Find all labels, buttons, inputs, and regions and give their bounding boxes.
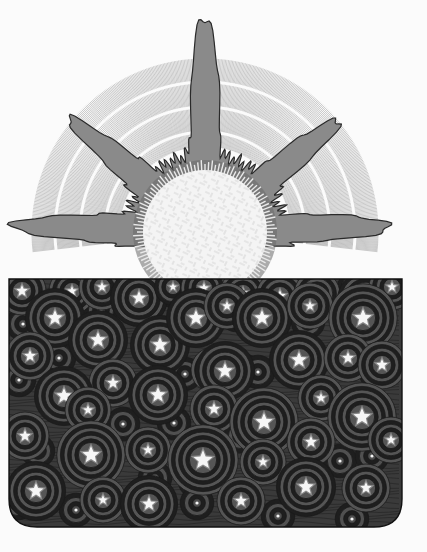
star-dot — [21, 322, 24, 325]
night-panel-group — [0, 264, 415, 536]
star-dot — [276, 514, 279, 517]
star-dot — [183, 372, 186, 375]
sun-over-starry-panel-illustration — [0, 0, 427, 552]
star-dot — [338, 459, 341, 462]
night-panel-content — [0, 264, 415, 536]
star-dot — [17, 378, 20, 381]
sun-core — [143, 170, 267, 294]
star-dot — [256, 370, 259, 373]
star-dot — [172, 421, 175, 424]
star-dot — [195, 501, 198, 504]
star-dot — [74, 508, 77, 511]
star-dot — [57, 356, 60, 359]
star-dot — [350, 517, 353, 520]
star-dot — [121, 422, 124, 425]
